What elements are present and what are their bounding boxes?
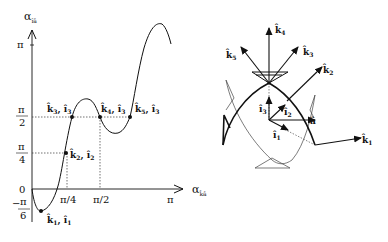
svg-text:2: 2: [19, 117, 25, 128]
y-tick-zero: 0: [19, 184, 25, 195]
y-tick-minus-pi-over-6: − π 6: [12, 196, 30, 221]
label-k4: k̂4: [275, 23, 286, 36]
point-label-k5-l3: k̂5, î3: [135, 102, 160, 115]
label-k3: k̂3: [303, 45, 314, 58]
svg-text:π: π: [18, 141, 25, 152]
point-label-k2-l2: k̂2, î2: [70, 148, 95, 161]
y-axis-label: αîâ: [24, 10, 37, 24]
curve-points: [39, 115, 132, 213]
y-tick-pi-over-2: π 2: [16, 104, 28, 128]
thin-curves: [226, 80, 315, 168]
vector-k3: [269, 47, 298, 83]
label-k5: k̂5: [226, 48, 237, 61]
right-diagram: k̂4 k̂5 k̂3 k̂2 k̂1 î3 î2 î1 â: [223, 23, 372, 168]
vector-k2: [287, 67, 322, 101]
vector-k1: [315, 138, 361, 145]
label-l1: î1: [273, 130, 281, 141]
point-label-k4-l3: k̂4, î3: [101, 102, 126, 115]
y-tick-pi: π: [17, 39, 24, 50]
y-tick-pi-over-4: π 4: [16, 141, 28, 165]
svg-text:π: π: [20, 196, 27, 207]
label-k2: k̂2: [323, 63, 334, 76]
label-l2: î2: [284, 107, 292, 118]
label-a: â: [310, 116, 316, 126]
vector-l1: [269, 120, 288, 130]
svg-text:4: 4: [19, 154, 25, 165]
vector-l2: [269, 105, 285, 120]
x-axis-label: αk̂â: [192, 183, 207, 197]
vector-k5: [241, 47, 269, 83]
svg-text:π: π: [18, 104, 25, 115]
point-label-k3-l3: k̂3, î3: [47, 102, 72, 115]
k-vectors: [241, 28, 361, 145]
label-l3: î3: [259, 104, 267, 115]
x-tick-pi: π: [167, 194, 174, 205]
x-tick-pi-over-4: π/4: [60, 194, 76, 205]
x-tick-pi-over-2: π/2: [93, 194, 109, 205]
label-k1: k̂1: [362, 133, 373, 146]
point-label-k1-l1: k̂1, î1: [47, 213, 72, 226]
svg-text:6: 6: [20, 210, 26, 221]
figure: αîâ αk̂â π π 2 π 4 0 − π 6 π/4 π/2 π: [0, 0, 388, 242]
left-plot: αîâ αk̂â π π 2 π 4 0 − π 6 π/4 π/2 π: [12, 10, 207, 226]
